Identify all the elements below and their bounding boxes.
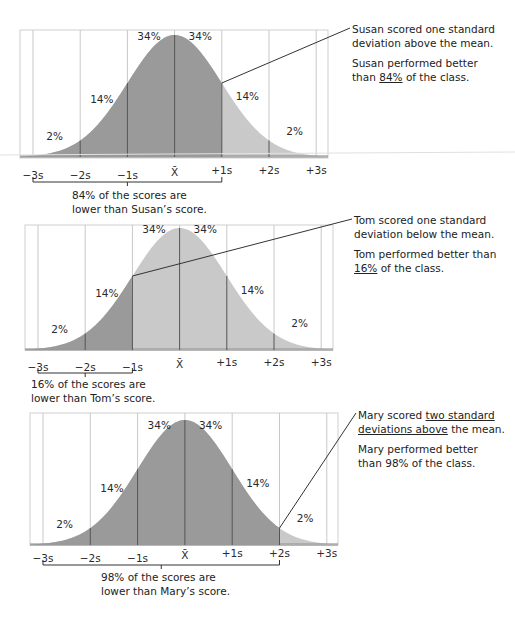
mary-bracket: [43, 560, 280, 565]
susan-caption-line-b: lower than Susan’s score.: [72, 203, 207, 215]
mary-region-percent-label: 14%: [100, 482, 123, 494]
tom-axis-tick-label: X̄: [176, 358, 183, 370]
susan-note-line-b: deviation above the mean.: [352, 37, 493, 49]
mary-region-percent-label: 34%: [199, 419, 222, 431]
tom-note-post: of the class.: [377, 262, 444, 274]
susan-note: Susan scored one standard deviation abov…: [352, 22, 495, 90]
mary-caption: 98% of the scores are lower than Mary’s …: [101, 570, 230, 598]
susan-region-percent-label: 34%: [137, 30, 160, 42]
tom-axis-tick-label: −2s: [75, 361, 96, 373]
tom-caption-line-a: 16% of the scores are: [31, 378, 146, 390]
susan-region-percent-label: 14%: [236, 90, 259, 102]
tom-axis-tick-label: +2s: [264, 356, 285, 368]
mary-axis-tick-label: +2s: [269, 547, 290, 559]
susan-axis-tick-label: +1s: [211, 164, 232, 176]
susan-axis-tick-label: X̄: [171, 166, 178, 178]
susan-note-post: of the class.: [403, 71, 470, 83]
mary-note-line-d: than 98% of the class.: [358, 457, 475, 469]
susan-percent-underlined: 84%: [379, 71, 402, 83]
susan-note-line-a: Susan scored one standard: [352, 23, 495, 35]
mary-caption-line-b: lower than Mary’s score.: [101, 585, 230, 597]
tom-region-percent-label: 14%: [241, 284, 264, 296]
tom-note-line-c: Tom performed better than: [354, 248, 496, 260]
tom-caption-line-b: lower than Tom’s score.: [31, 392, 155, 404]
mary-axis-tick-label: +3s: [316, 547, 337, 559]
mary-region-percent-label: 34%: [148, 419, 171, 431]
mary-axis-tick-label: X̄: [181, 549, 188, 561]
susan-note-line-c: Susan performed better: [352, 57, 478, 69]
tom-region-percent-label: 2%: [291, 317, 308, 329]
susan-note-than: than: [352, 71, 379, 83]
tom-axis-tick-label: +3s: [311, 356, 332, 368]
susan-baseline: [20, 155, 328, 158]
susan-axis-tick-label: +3s: [306, 164, 327, 176]
mary-region-percent-label: 2%: [297, 512, 314, 524]
tom-region-percent-label: 34%: [142, 223, 165, 235]
tom-axis-tick-label: +1s: [216, 356, 237, 368]
normal-distribution-figure: 2%14%34%34%14%2%−3s−2s−1sX̄+1s+2s+3s2%14…: [0, 0, 515, 628]
mary-baseline: [30, 543, 338, 546]
tom-baseline: [25, 348, 333, 351]
susan-region-percent-label: 34%: [189, 30, 212, 42]
mary-axis-tick-label: −2s: [80, 552, 101, 564]
mary-region-percent-label: 14%: [246, 477, 269, 489]
tom-region-percent-label: 2%: [51, 323, 68, 335]
susan-region-percent-label: 14%: [90, 93, 113, 105]
mary-note-pre: Mary scored: [358, 409, 426, 421]
susan-caption-line-a: 84% of the scores are: [72, 189, 187, 201]
mary-region-percent-label: 2%: [56, 518, 73, 530]
susan-callout-line: [222, 28, 350, 83]
susan-caption: 84% of the scores are lower than Susan’s…: [72, 188, 207, 216]
mary-note: Mary scored two standard deviations abov…: [358, 408, 505, 476]
tom-region-percent-label: 14%: [95, 287, 118, 299]
susan-axis-tick-label: −1s: [117, 169, 138, 181]
tom-percent-underlined: 16%: [354, 262, 377, 274]
tom-note: Tom scored one standard deviation below …: [354, 213, 496, 281]
susan-region-percent-label: 2%: [46, 130, 63, 142]
tom-note-line-a: Tom scored one standard: [354, 214, 486, 226]
mary-axis-tick-label: −1s: [127, 552, 148, 564]
susan-axis-tick-label: −2s: [70, 169, 91, 181]
mary-underlined-a: two standard: [426, 409, 495, 421]
susan-region-percent-label: 2%: [286, 125, 303, 137]
mary-note-line-c: Mary performed better: [358, 443, 478, 455]
mary-caption-line-a: 98% of the scores are: [101, 571, 216, 583]
mary-axis-tick-label: +1s: [222, 547, 243, 559]
mary-note-post: the mean.: [448, 423, 505, 435]
tom-note-line-b: deviation below the mean.: [354, 228, 494, 240]
tom-curve-light-area: [25, 228, 333, 350]
tom-region-percent-label: 34%: [194, 223, 217, 235]
mary-underlined-b: deviations above: [358, 423, 448, 435]
mary-callout-line: [280, 413, 357, 528]
susan-axis-tick-label: +2s: [259, 164, 280, 176]
tom-caption: 16% of the scores are lower than Tom’s s…: [31, 377, 155, 405]
